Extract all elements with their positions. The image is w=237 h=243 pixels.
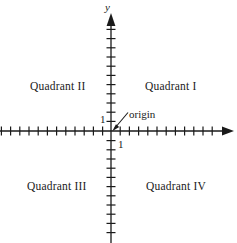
x-axis-unit-label: 1 [118,139,124,150]
quadrant-label-i: Quadrant I [145,81,197,93]
y-axis-arrowhead-icon [107,13,116,26]
quadrant-label-iii: Quadrant III [27,181,87,193]
axes-graphic [0,0,237,243]
quadrant-label-iv: Quadrant IV [146,181,206,193]
y-axis-unit-label: 1 [100,114,106,125]
origin-annotation-label: origin [129,109,155,120]
x-axis-arrowhead-icon [222,127,234,136]
coordinate-plane-figure: Quadrant II Quadrant I Quadrant III Quad… [0,0,237,243]
y-axis-name-label: y [105,2,110,13]
quadrant-label-ii: Quadrant II [30,81,86,93]
